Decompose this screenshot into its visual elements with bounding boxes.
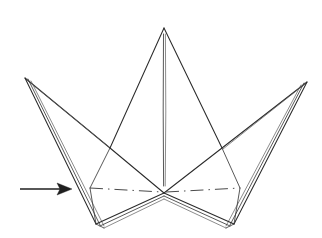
- origami-diagram-canvas: [0, 0, 322, 238]
- origami-diagram-figure: [0, 0, 322, 238]
